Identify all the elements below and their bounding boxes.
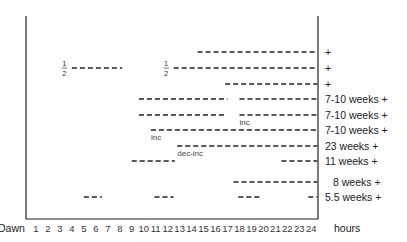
row-label: + (325, 62, 331, 74)
x-tick-label: 4 (69, 223, 74, 234)
x-axis-ticks: 123456789101112131415161718192021222324 (33, 223, 316, 234)
timeline-row: + (225, 78, 331, 90)
x-tick-label: 1 (33, 223, 38, 234)
half-fraction-annotation: 1 (164, 59, 168, 68)
x-tick-label: 22 (282, 223, 293, 234)
row-label: + (325, 78, 331, 90)
row-label: + (325, 46, 331, 58)
x-tick-label: 11 (151, 223, 161, 234)
row-label: 5.5 weeks + (325, 191, 381, 203)
timeline-row: 8 weeks + (234, 176, 381, 188)
row-label: 7-10 weeks + (325, 124, 388, 136)
x-tick-label: 23 (294, 223, 305, 234)
x-tick-label: 10 (138, 223, 149, 234)
x-tick-label: 6 (93, 223, 98, 234)
x-tick-label: 12 (162, 223, 173, 234)
x-tick-label: 5 (81, 223, 86, 234)
x-tick-label: 3 (57, 223, 62, 234)
row-label: 23 weeks + (325, 140, 378, 152)
half-fraction-annotation: 1 (62, 59, 66, 68)
row-label: 7-10 weeks + (325, 109, 388, 121)
hours-label: hours (334, 222, 360, 234)
x-tick-label: 8 (117, 223, 122, 234)
x-tick-label: 20 (258, 223, 269, 234)
x-tick-label: 13 (174, 223, 185, 234)
x-tick-label: 7 (105, 223, 110, 234)
timeline-row: + (198, 46, 332, 58)
x-tick-label: 14 (186, 223, 197, 234)
timeline-row: 5.5 weeks + (84, 191, 381, 203)
x-tick-label: 9 (129, 223, 134, 234)
x-tick-label: 2 (45, 223, 50, 234)
row-label: 8 weeks + (333, 176, 381, 188)
x-tick-label: 16 (210, 223, 221, 234)
half-fraction-annotation: 2 (62, 69, 66, 78)
x-tick-label: 21 (270, 223, 281, 234)
x-tick-label: 18 (234, 223, 245, 234)
timeline-row: 1212+ (62, 59, 331, 78)
segment-annotation: dec-inc (177, 149, 203, 158)
segment-annotation: inc (151, 133, 161, 142)
timeline-row: 11 weeks + (132, 155, 378, 167)
x-tick-label: 15 (198, 223, 209, 234)
timeline-row: 7-10 weeks + (139, 93, 388, 105)
x-tick-label: 19 (246, 223, 257, 234)
chart-rows: +1212++7-10 weeks +inc7-10 weeks +inc7-1… (62, 46, 388, 203)
x-tick-label: 17 (222, 223, 233, 234)
dawn-label: Dawn (0, 222, 25, 234)
x-tick-label: 24 (306, 223, 317, 234)
timeline-chart: +1212++7-10 weeks +inc7-10 weeks +inc7-1… (0, 0, 407, 242)
row-label: 7-10 weeks + (325, 93, 388, 105)
chart-axes (26, 16, 318, 219)
row-label: 11 weeks + (325, 155, 378, 167)
half-fraction-annotation: 2 (164, 69, 168, 78)
segment-annotation: inc (239, 118, 249, 127)
